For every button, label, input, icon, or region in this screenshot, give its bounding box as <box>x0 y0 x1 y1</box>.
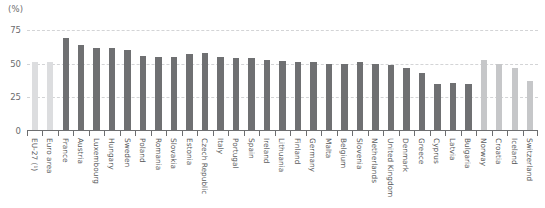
x-category: Lithuania <box>275 137 290 207</box>
x-category-label: Finland <box>294 138 301 164</box>
x-category-label: Euro area <box>46 138 53 174</box>
x-category-label: Luxembourg <box>92 138 99 184</box>
y-tick-label-50: 50 <box>10 59 21 69</box>
x-category: Iceland <box>507 137 522 207</box>
bar-slot <box>399 30 414 131</box>
bar-slot <box>213 30 228 131</box>
x-category: United Kingdom <box>383 137 398 207</box>
x-category-label: Spain <box>247 138 254 159</box>
x-category: Spain <box>244 137 259 207</box>
x-category-label: Norway <box>480 138 487 166</box>
x-category-label: Sweden <box>123 138 130 167</box>
bar <box>233 58 239 131</box>
bar-slot <box>461 30 476 131</box>
x-category: Bulgaria <box>461 137 476 207</box>
bar-slot <box>135 30 150 131</box>
x-category-label: Greece <box>418 138 425 164</box>
x-category: Malta <box>321 137 336 207</box>
bar-slot <box>414 30 429 131</box>
bar <box>155 57 161 131</box>
bar <box>465 84 471 131</box>
x-category-label: France <box>61 138 68 163</box>
bar <box>32 62 38 131</box>
x-category-label: Poland <box>139 138 146 163</box>
x-category: Portugal <box>228 137 243 207</box>
x-category: Euro area <box>42 137 57 207</box>
bar <box>93 48 99 131</box>
x-category-label: Austria <box>77 138 84 164</box>
bar-slot <box>104 30 119 131</box>
bar-slot <box>228 30 243 131</box>
bar-slot <box>321 30 336 131</box>
bar <box>279 61 285 131</box>
bar-slot <box>244 30 259 131</box>
bar-slot <box>27 30 42 131</box>
bar <box>419 73 425 131</box>
x-category-label: Slovakia <box>170 138 177 169</box>
x-category: Slovakia <box>166 137 181 207</box>
bar <box>512 68 518 131</box>
bar <box>434 84 440 131</box>
bar <box>202 53 208 131</box>
x-category: Poland <box>135 137 150 207</box>
bar-slot <box>89 30 104 131</box>
bar-series <box>27 30 538 131</box>
bar-slot <box>197 30 212 131</box>
bar-slot <box>166 30 181 131</box>
x-category-label: Lithuania <box>278 138 285 172</box>
x-category-label: EU-27 (¹) <box>31 138 38 171</box>
bar <box>357 62 363 131</box>
x-category-label: Italy <box>216 138 223 154</box>
x-category-label: Estonia <box>185 138 192 165</box>
bar-slot <box>42 30 57 131</box>
x-category: Austria <box>73 137 88 207</box>
x-category: Sweden <box>120 137 135 207</box>
bar-slot <box>523 30 538 131</box>
x-category: Ireland <box>259 137 274 207</box>
x-category: Czech Republic <box>197 137 212 207</box>
x-category-label: Malta <box>325 138 332 158</box>
bar <box>47 62 53 131</box>
bar <box>109 48 115 131</box>
x-category: Greece <box>414 137 429 207</box>
bar-slot <box>476 30 491 131</box>
bar <box>326 64 332 131</box>
x-category: Croatia <box>492 137 507 207</box>
bar <box>78 45 84 131</box>
x-category: Luxembourg <box>89 137 104 207</box>
bar-slot <box>368 30 383 131</box>
bar <box>403 68 409 131</box>
x-category-label: Iceland <box>511 138 518 165</box>
x-category-label: Germany <box>309 138 316 172</box>
x-category-label: Netherlands <box>371 138 378 183</box>
x-category: Italy <box>213 137 228 207</box>
bar <box>388 65 394 131</box>
x-category-label: United Kingdom <box>387 138 394 197</box>
bar-slot <box>430 30 445 131</box>
x-category: Switzerland <box>523 137 538 207</box>
x-category-label: Denmark <box>402 138 409 172</box>
x-category-label: Romania <box>154 138 161 170</box>
bar <box>481 60 487 131</box>
bar-slot <box>507 30 522 131</box>
unit-label: (%) <box>8 4 23 14</box>
bar <box>63 38 69 131</box>
bar-slot <box>73 30 88 131</box>
bar-slot <box>275 30 290 131</box>
bar-slot <box>259 30 274 131</box>
x-category-label: Belgium <box>340 138 347 168</box>
bar-slot <box>492 30 507 131</box>
x-category-label: Hungary <box>108 138 115 170</box>
bar-slot <box>151 30 166 131</box>
bar <box>295 62 301 131</box>
x-category-label: Bulgaria <box>464 138 471 169</box>
bar-chart: (%) 0255075 EU-27 (¹)Euro areaFranceAust… <box>0 0 545 208</box>
x-category: Estonia <box>182 137 197 207</box>
x-category-label: Portugal <box>232 138 239 169</box>
bar-slot <box>445 30 460 131</box>
bar <box>264 60 270 131</box>
bar-slot <box>182 30 197 131</box>
y-tick-label-0: 0 <box>16 126 21 136</box>
x-axis-category-labels: EU-27 (¹)Euro areaFranceAustriaLuxembour… <box>27 137 538 207</box>
x-category: EU-27 (¹) <box>27 137 42 207</box>
